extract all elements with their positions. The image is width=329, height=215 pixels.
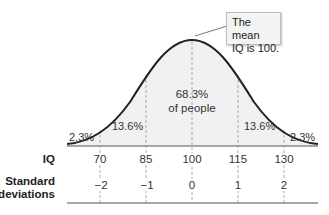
iq-tick-130: 130: [274, 153, 293, 165]
center-sub: of people: [168, 101, 215, 115]
callout-line-1: The mean: [232, 16, 280, 42]
iq-tick-100: 100: [182, 153, 201, 165]
center-region-label: 68.3% of people: [168, 87, 215, 115]
iq-tick-85: 85: [140, 153, 153, 165]
sd-tick-1: 1: [235, 179, 241, 191]
sd-row-label-line1: Standard: [0, 175, 55, 188]
right-tail-label: 2.3%: [290, 131, 315, 143]
sd-tick-minus2: −2: [94, 179, 107, 191]
sd-tick-0: 0: [189, 179, 195, 191]
callout-leader: [195, 26, 227, 36]
iq-tick-115: 115: [229, 153, 247, 165]
iq-tick-70: 70: [94, 153, 107, 165]
left-mid-label: 13.6%: [112, 120, 143, 132]
sd-row-label: Standard deviations: [0, 175, 55, 201]
sd-tick-2: 2: [281, 179, 287, 191]
left-tail-label: 2.3%: [69, 131, 94, 143]
center-percent: 68.3%: [168, 87, 215, 101]
right-mid-label: 13.6%: [244, 120, 275, 132]
mean-callout: The mean IQ is 100.: [226, 12, 281, 45]
sd-row-label-line2: deviations: [0, 188, 55, 201]
iq-row-label: IQ: [43, 153, 55, 166]
callout-line-2: IQ is 100.: [232, 42, 280, 55]
sd-tick-minus1: −1: [140, 179, 153, 191]
